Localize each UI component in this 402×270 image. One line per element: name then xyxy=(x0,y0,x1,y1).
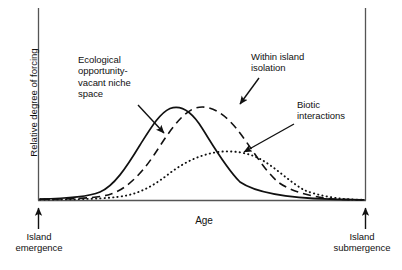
annotation-ecological-opportunity: Ecological opportunity- vacant niche spa… xyxy=(78,54,170,99)
figure-container: Relative degree of forcing Ecological op… xyxy=(0,0,402,270)
x-axis-label: Age xyxy=(184,215,224,226)
island-emergence-label: Island emergence xyxy=(4,231,74,254)
annotation-within-island-isolation: Within island isolation xyxy=(251,51,337,74)
island-submergence-label: Island submergence xyxy=(322,231,402,254)
curve-biotic-interactions xyxy=(40,151,365,200)
y-axis-label: Relative degree of forcing xyxy=(28,23,39,183)
arrow-biotic-interactions xyxy=(244,124,294,152)
arrow-within-island-isolation xyxy=(240,78,259,104)
annotation-biotic-interactions: Biotic interactions xyxy=(297,99,375,122)
chart-canvas xyxy=(0,0,402,270)
